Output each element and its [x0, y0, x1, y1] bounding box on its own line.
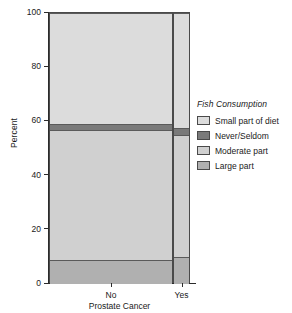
legend-swatch-icon: [197, 131, 210, 140]
plot-area: [49, 12, 190, 283]
legend-item: Large part: [197, 158, 292, 173]
y-tick: 20: [0, 224, 48, 234]
legend-item-label: Large part: [215, 161, 254, 171]
bar-segment: [50, 124, 172, 129]
y-tick: 100: [0, 7, 48, 17]
y-tick-label: 100: [1, 7, 41, 17]
legend-item: Small part of diet: [197, 113, 292, 128]
y-tick-mark: [44, 12, 48, 13]
y-tick-mark: [44, 228, 48, 229]
legend-item: Never/Seldom: [197, 128, 292, 143]
legend-item-label: Moderate part: [215, 146, 268, 156]
legend-swatch-icon: [197, 146, 210, 155]
y-axis-title: Percent: [9, 83, 19, 183]
stacked-bar-chart: Percent 100806040200 NoYes Prostate Canc…: [0, 0, 292, 313]
legend: Fish Consumption Small part of dietNever…: [197, 99, 292, 173]
legend-item-label: Never/Seldom: [215, 131, 269, 141]
y-tick-label: 60: [1, 115, 41, 125]
legend-swatch-icon: [197, 116, 210, 125]
y-tick-label: 40: [1, 170, 41, 180]
x-tick-label: No: [81, 290, 141, 300]
y-tick-mark: [44, 283, 48, 284]
legend-title: Fish Consumption: [197, 99, 292, 109]
y-tick: 40: [0, 170, 48, 180]
bar-column-no: [49, 12, 173, 283]
x-tick-mark: [182, 283, 183, 287]
bar-column-yes: [173, 12, 190, 283]
y-tick: 60: [0, 115, 48, 125]
y-tick-mark: [44, 66, 48, 67]
legend-item-label: Small part of diet: [215, 116, 279, 126]
x-tick-mark: [111, 283, 112, 287]
x-axis-title: Prostate Cancer: [49, 301, 190, 311]
y-tick-mark: [44, 174, 48, 175]
bar-segment: [174, 257, 189, 284]
y-tick-label: 80: [1, 61, 41, 71]
y-tick-label: 20: [1, 224, 41, 234]
y-tick: 0: [0, 278, 48, 288]
y-tick: 80: [0, 61, 48, 71]
bar-segment: [50, 130, 172, 260]
bar-segment: [50, 13, 172, 124]
legend-swatch-icon: [197, 161, 210, 170]
legend-items: Small part of dietNever/SeldomModerate p…: [197, 113, 292, 173]
bar-segment: [174, 13, 189, 128]
bar-segment: [50, 260, 172, 284]
x-tick-label: Yes: [152, 290, 212, 300]
bar-segment: [174, 135, 189, 257]
y-tick-mark: [44, 120, 48, 121]
legend-item: Moderate part: [197, 143, 292, 158]
bar-segment: [174, 128, 189, 135]
y-tick-label: 0: [1, 278, 41, 288]
